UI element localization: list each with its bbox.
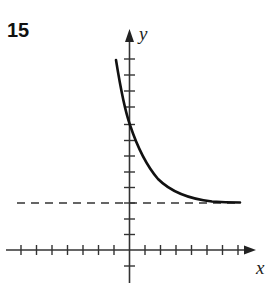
y-axis-label: y	[137, 23, 148, 44]
y-axis-arrow-icon	[125, 29, 134, 42]
x-axis: x	[6, 245, 265, 278]
y-axis: y	[124, 23, 148, 283]
x-axis-label: x	[255, 257, 265, 278]
exponential-curve	[116, 60, 240, 203]
x-axis-arrow-icon	[244, 246, 256, 255]
graph: x y	[0, 0, 270, 297]
